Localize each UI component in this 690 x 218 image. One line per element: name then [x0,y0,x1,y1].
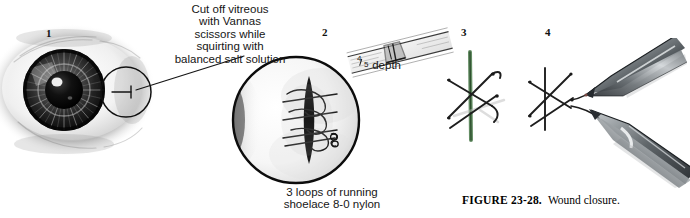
depth-annotation: 4 5 depth [357,57,401,71]
figure-wound-closure: 1 2 3 4 Cut off vitreous with Vannas sci… [0,0,690,218]
panel-number-3: 3 [461,27,467,38]
callout-line-5: balanced salt solution [144,53,316,65]
panel-2-depth-inset [340,18,460,88]
callout-line-3: scissors while [144,28,316,40]
callout-line-4: squirting with [144,40,316,52]
panel-number-1: 1 [46,28,52,39]
callout-annotation: Cut off vitreous with Vannas scissors wh… [144,3,316,65]
loops-line-1: 3 loops of running [258,186,406,198]
panel-4-instrument-tying [525,38,690,188]
loops-line-2: shoelace 8-0 nylon [258,198,406,210]
panel-3-suture-crossing [440,44,530,164]
callout-line-1: Cut off vitreous [144,3,316,15]
panel-2-magnified-wound [225,50,370,190]
depth-word: depth [372,59,401,71]
panel-number-2: 2 [322,27,328,38]
depth-fraction: 4 5 [357,57,369,69]
panel-number-4: 4 [545,27,551,38]
depth-denominator: 5 [364,60,368,69]
loops-annotation: 3 loops of running shoelace 8-0 nylon [258,186,406,211]
callout-line-2: with Vannas [144,15,316,27]
figure-caption-text: Wound closure. [548,194,620,206]
figure-caption: FIGURE 23-28.Wound closure. [462,194,620,206]
figure-caption-label: FIGURE 23-28. [462,194,542,206]
